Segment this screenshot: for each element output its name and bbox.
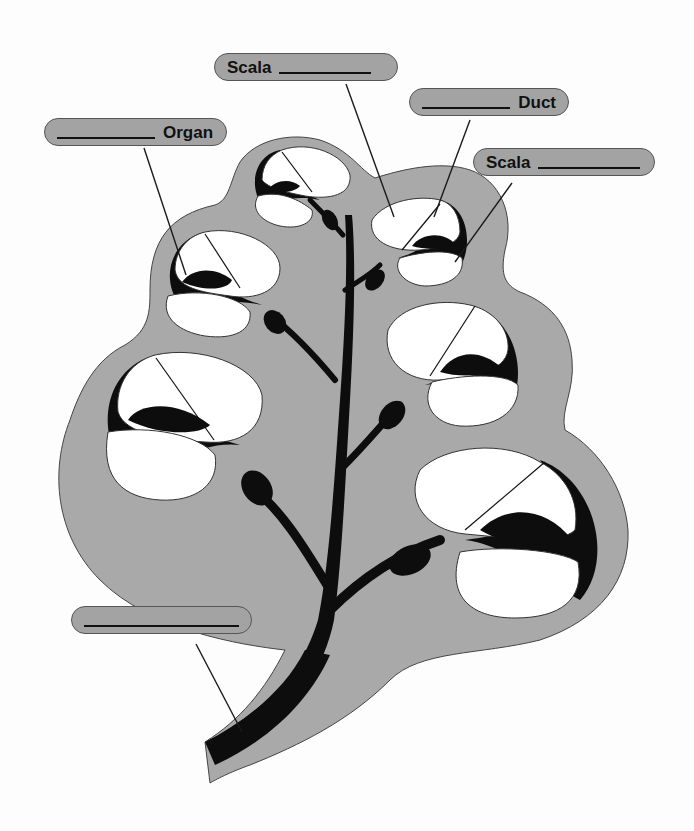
answer-blank[interactable] — [538, 167, 640, 169]
label-scala-vestibuli[interactable]: Scala — [214, 53, 398, 81]
answer-blank[interactable] — [422, 107, 510, 109]
answer-blank[interactable] — [84, 625, 239, 627]
answer-blank[interactable] — [279, 72, 371, 74]
label-prefix: Scala — [227, 59, 271, 76]
label-suffix: Organ — [163, 124, 213, 141]
label-cochlear-duct[interactable]: Duct — [409, 88, 569, 116]
label-organ-of-corti[interactable]: Organ — [44, 118, 227, 146]
label-scala-tympani[interactable]: Scala — [473, 148, 655, 176]
cochlea-diagram: Scala Duct Scala Organ — [0, 0, 694, 831]
answer-blank[interactable] — [57, 137, 155, 139]
label-cochlear-nerve[interactable] — [71, 606, 252, 634]
label-prefix: Scala — [486, 154, 530, 171]
label-suffix: Duct — [518, 94, 556, 111]
